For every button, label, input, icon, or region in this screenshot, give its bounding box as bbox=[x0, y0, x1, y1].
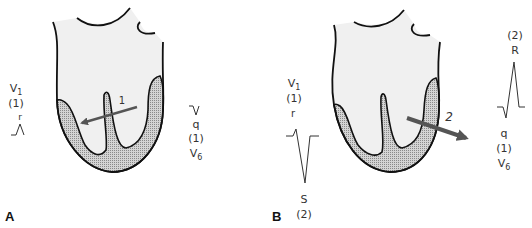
phase-label-a-v6: (1) bbox=[186, 132, 206, 145]
phase-label-b-r: (2) bbox=[505, 29, 525, 42]
ecg-trace-v6-b bbox=[497, 62, 525, 118]
ecg-trace-v6-a bbox=[189, 106, 199, 115]
ecg-trace-v1-a bbox=[11, 124, 24, 135]
wave-r-label-b: r bbox=[283, 107, 303, 120]
wave-r-label-a: r bbox=[10, 111, 30, 124]
heart-panel-b bbox=[286, 10, 525, 183]
lead-v1-label-a: V1 bbox=[6, 82, 26, 96]
lead-v6-label-b: V6 bbox=[494, 157, 514, 171]
vector-2-label: 2 bbox=[442, 111, 456, 124]
phase-label-b-v6: (1) bbox=[494, 142, 514, 155]
panel-letter-b: B bbox=[272, 209, 281, 224]
wave-s-label-b: S bbox=[294, 193, 314, 206]
lead-v6-label-a: V6 bbox=[186, 147, 206, 161]
wave-R-label-b: R bbox=[505, 44, 525, 57]
vector-1-label: 1 bbox=[116, 94, 128, 107]
ecg-heart-diagram: V1 (1) r 1 q (1) V6 A V1 (1) r S (2) 2 (… bbox=[0, 0, 532, 228]
phase-label-b-s: (2) bbox=[294, 208, 314, 221]
phase-label-b-v1: (1) bbox=[284, 92, 304, 105]
phase-label-a-v1: (1) bbox=[6, 97, 26, 110]
ecg-trace-v1-b bbox=[286, 129, 319, 183]
wave-q-label-b: q bbox=[494, 127, 514, 140]
heart-panel-a bbox=[11, 8, 199, 172]
panel-letter-a: A bbox=[5, 209, 14, 224]
lead-v1-label-b: V1 bbox=[284, 77, 304, 91]
wave-q-label-a: q bbox=[186, 118, 206, 131]
